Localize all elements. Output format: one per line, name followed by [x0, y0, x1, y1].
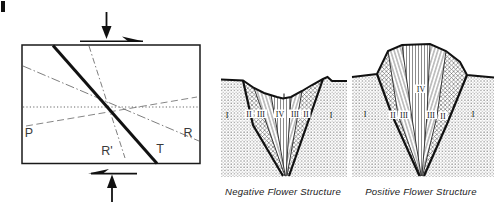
zone-label: IV [276, 110, 285, 119]
strain-ellipse-diagram: P R R' T [22, 12, 200, 202]
negative-flower-structure: I II III IV III II I Negative Flower Str… [221, 77, 347, 197]
r-prime-label: R' [101, 144, 112, 158]
t-label: T [156, 142, 164, 156]
positive-flower-structure: I II III IV III II I Positive Flower Str… [352, 44, 494, 197]
shear-half-arrow-left-icon [88, 169, 137, 174]
zone-label: II [390, 111, 396, 120]
zone-label: II [440, 112, 446, 121]
zone-label: I [472, 110, 475, 119]
p-label: P [25, 126, 33, 140]
zone-label: I [330, 111, 333, 120]
zone-label: III [400, 111, 408, 120]
up-arrow-icon [107, 175, 117, 203]
zone-label: III [291, 110, 299, 119]
zone-label: II [246, 110, 252, 119]
negative-flower-caption: Negative Flower Structure [225, 186, 341, 197]
zone-label: III [427, 111, 435, 120]
flower-structure-figure: P R R' T [0, 0, 503, 209]
zone-label: I [226, 111, 229, 120]
zone-label: II [303, 110, 309, 119]
zone-label: IV [417, 85, 426, 94]
shear-half-arrow-right-icon [80, 37, 143, 42]
scan-artifact [1, 1, 5, 12]
zone-label: I [364, 110, 367, 119]
r-label: R [183, 126, 192, 140]
positive-flower-caption: Positive Flower Structure [365, 186, 477, 197]
down-arrow-icon [102, 12, 112, 39]
zone-label: III [257, 110, 265, 119]
figure-canvas: P R R' T [0, 0, 503, 209]
